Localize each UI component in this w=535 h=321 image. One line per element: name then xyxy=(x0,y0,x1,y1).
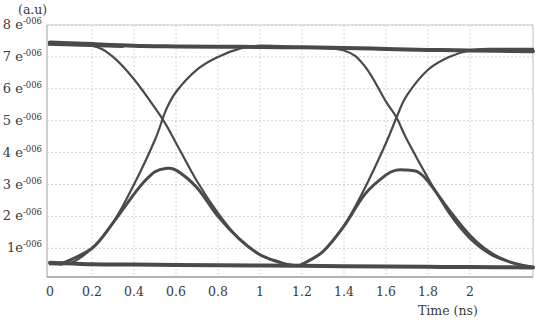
x-tick-label: 1.2 xyxy=(292,284,312,299)
x-tick-label: 0 xyxy=(46,284,54,299)
y-tick-labels: 1e-0062 e-0063 e-0064 e-0065 e-0066 e-00… xyxy=(3,16,42,255)
x-tick-label: 1.4 xyxy=(334,284,354,299)
y-tick-label: 1e-006 xyxy=(7,239,42,255)
eye-diagram-chart: 1e-0062 e-0063 e-0064 e-0065 e-0066 e-00… xyxy=(0,0,535,321)
x-tick-label: 2 xyxy=(466,284,474,299)
x-tick-labels: 00.20.40.60.811.21.41.61.82 xyxy=(46,284,474,299)
y-tick-label: 3 e-006 xyxy=(3,176,42,192)
x-tick-label: 0.4 xyxy=(124,284,144,299)
y-tick-label: 7 e-006 xyxy=(3,48,42,64)
y-tick-label: 5 e-006 xyxy=(3,112,42,128)
y-tick-label: 4 e-006 xyxy=(3,144,42,160)
x-tick-label: 1.6 xyxy=(376,284,396,299)
y-tick-label: 8 e-006 xyxy=(3,16,42,32)
x-tick-label: 0.8 xyxy=(208,284,228,299)
data-series xyxy=(48,41,533,267)
y-axis-label: (a.u) xyxy=(18,2,47,17)
x-axis-label: Time (ns) xyxy=(418,303,478,318)
x-tick-label: 0.2 xyxy=(82,284,102,299)
x-tick-label: 0.6 xyxy=(166,284,186,299)
x-tick-label: 1 xyxy=(256,284,264,299)
y-tick-label: 6 e-006 xyxy=(3,80,42,96)
y-tick-label: 2 e-006 xyxy=(3,207,42,223)
series-rising-2 xyxy=(292,49,534,266)
x-tick-label: 1.8 xyxy=(418,284,438,299)
